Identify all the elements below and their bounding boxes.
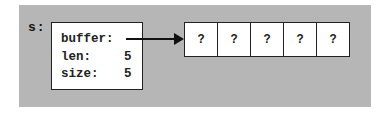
array-cell: ?: [317, 23, 349, 56]
pointer-arrow-icon: [126, 32, 188, 46]
field-len-label: len:: [61, 50, 91, 64]
field-size-value: 5: [124, 67, 132, 81]
array-cell: ?: [185, 23, 218, 56]
array-cell: ?: [284, 23, 317, 56]
array-cell: ?: [251, 23, 284, 56]
array-cell: ?: [218, 23, 251, 56]
variable-label: s:: [28, 20, 46, 35]
buffer-array: ? ? ? ? ?: [184, 22, 350, 57]
field-buffer-label: buffer:: [61, 32, 114, 46]
field-len-value: 5: [124, 50, 132, 64]
field-size-label: size:: [61, 67, 99, 81]
